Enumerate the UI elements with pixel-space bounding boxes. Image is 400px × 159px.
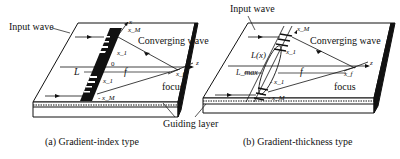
L-x-label-b: L(x): [251, 50, 266, 60]
x-m-bottom-label-a: - x_M: [98, 95, 115, 102]
L-label-a: L: [74, 67, 80, 77]
x-1-top-label-b: x_1: [286, 49, 296, 56]
caption-a: (a) Gradient-index type: [45, 137, 139, 147]
f-label-a: f: [124, 67, 127, 77]
focus-label-b: focus: [334, 82, 356, 92]
x-1-bottom-label-a: x_1: [103, 78, 113, 85]
converging-wave-label-b: Converging wave: [310, 36, 381, 46]
L-max-label-b: L_max: [236, 68, 258, 78]
caption-b: (b) Gradient-thickness type: [243, 137, 352, 147]
converging-wave-label-a: Converging wave: [138, 36, 209, 46]
x-1-top-label-a: x_1: [117, 50, 127, 57]
x-m-top-label-a: x_M: [128, 27, 140, 34]
focus-label-a: focus: [162, 82, 184, 92]
axis-z-label-b: z: [370, 60, 373, 67]
origin-label-a: 0: [111, 61, 115, 68]
axis-x-label-a: x: [129, 19, 132, 26]
f-label-b: f: [300, 67, 303, 77]
input-wave-label-b: Input wave: [230, 4, 275, 14]
x-f-label-b: x_f: [344, 71, 353, 78]
x-1-bottom-label-b: - x_1: [270, 79, 284, 86]
guiding-layer-label: Guiding layer: [163, 119, 218, 129]
x-f-label-a: x_f: [176, 71, 185, 78]
x-m-bottom-label-b: - x_M: [268, 95, 285, 102]
x-m-top-label-b: x_M: [297, 26, 309, 33]
axis-z-label-a: z: [196, 60, 199, 67]
input-wave-label-a: Input wave: [9, 22, 54, 32]
